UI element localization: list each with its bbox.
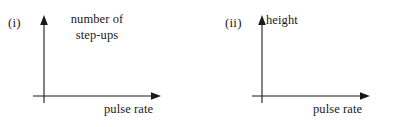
panel-ii-y-axis-label: height (266, 13, 346, 29)
axes-panel-ii: (ii) height pulse rate (204, 0, 408, 127)
panel-ii-y-axis-arrowhead (258, 15, 266, 25)
axes-panel-i: (i) number of step-ups pulse rate (0, 0, 204, 127)
figure-container: (i) number of step-ups pulse rate (ii) (0, 0, 408, 127)
panel-i-x-axis-arrowhead (151, 92, 161, 100)
panel-ii-x-axis-arrowhead (360, 92, 370, 100)
panel-i-y-axis-arrowhead (40, 15, 48, 25)
panel-ii-x-axis-label: pulse rate (313, 102, 362, 118)
panel-i-x-axis-label: pulse rate (104, 102, 153, 118)
panel-i-y-axis-label: number of step-ups (49, 12, 145, 43)
